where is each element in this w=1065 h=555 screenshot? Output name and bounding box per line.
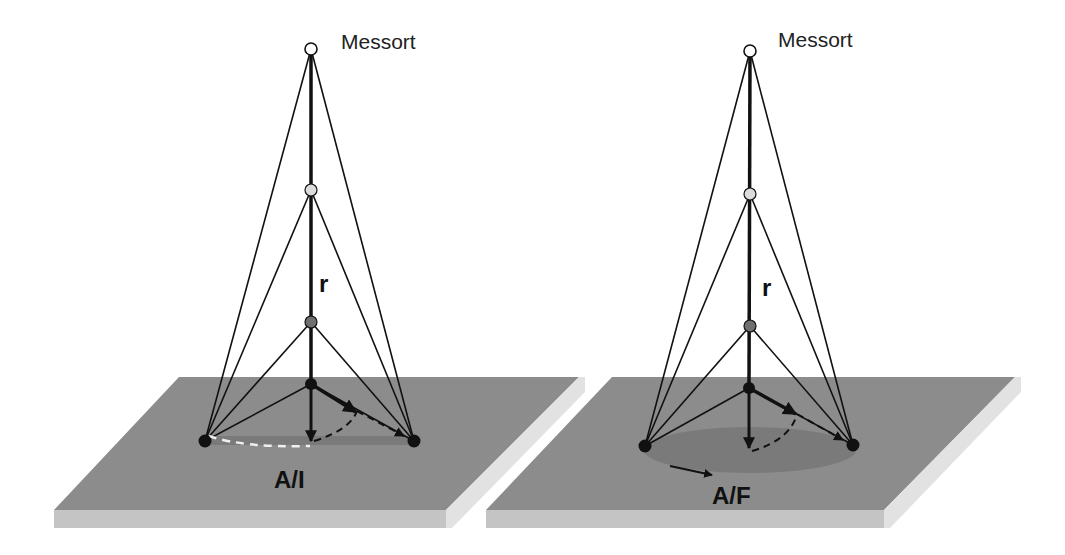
source-label: Messort [341, 30, 416, 53]
endpoint-left [199, 435, 212, 448]
plate-label: A/I [274, 466, 305, 493]
endpoint-right [847, 439, 860, 452]
endpoint-left [639, 440, 652, 453]
point-3 [744, 320, 756, 332]
point-2 [744, 188, 756, 200]
point-4 [743, 382, 755, 394]
point-2 [305, 184, 317, 196]
distance-label: r [319, 270, 328, 297]
left-plate-front [54, 510, 446, 528]
plate-label: A/F [712, 482, 751, 509]
distance-axis [749, 51, 750, 388]
source-label: Messort [778, 28, 853, 51]
point-4 [305, 378, 317, 390]
point-3 [305, 316, 317, 328]
right-diagram: Messort r A/F [639, 28, 860, 509]
distance-label: r [762, 274, 771, 301]
point-top [305, 43, 317, 55]
endpoint-right [408, 435, 421, 448]
point-top [744, 45, 756, 57]
diagram-canvas: Messort r A/I Messort r [0, 0, 1065, 555]
right-plate-front [486, 510, 884, 528]
